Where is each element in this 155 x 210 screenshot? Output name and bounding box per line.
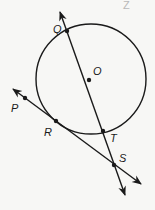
label-Q: Q <box>53 23 62 35</box>
label-S: S <box>119 152 127 164</box>
point-S <box>112 163 116 167</box>
corner-label: Z <box>123 0 130 11</box>
point-O <box>87 78 91 82</box>
geometry-diagram: Z Q O P R T S <box>0 0 155 210</box>
line-QS <box>60 12 125 195</box>
label-R: R <box>44 126 52 138</box>
label-P: P <box>11 102 19 114</box>
point-Q <box>65 29 69 33</box>
label-O: O <box>93 65 102 77</box>
label-T: T <box>110 132 118 144</box>
point-T <box>101 129 105 133</box>
line-PS <box>13 89 141 184</box>
point-P <box>23 96 27 100</box>
point-R <box>54 119 58 123</box>
